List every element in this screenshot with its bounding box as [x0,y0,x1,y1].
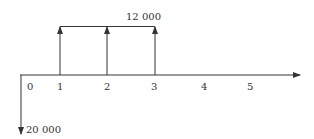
period-label-5: 5 [247,81,253,92]
period-label-4: 4 [201,81,207,92]
period-label-1: 1 [57,81,63,92]
outflow-amount-label: 20 000 [26,124,61,135]
period-label-3: 3 [151,81,157,92]
period-label-0: 0 [27,81,33,92]
period-label-2: 2 [104,81,110,92]
inflow-amount-label: 12 000 [126,11,161,22]
cash-flow-diagram: 0 1 2 3 4 5 12 000 20 000 [0,0,314,139]
